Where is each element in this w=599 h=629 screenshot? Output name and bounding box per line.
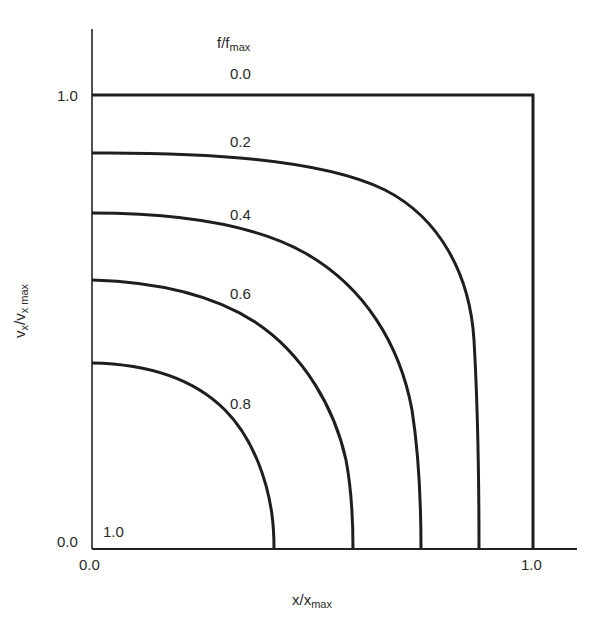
contour-line-0-0 — [92, 95, 533, 549]
y-axis-label-sub1: x — [18, 325, 30, 331]
legend-title: f/fmax — [217, 35, 250, 53]
y-axis-label-v: v — [11, 331, 28, 339]
contour-label-0-2: 0.2 — [230, 134, 251, 149]
contour-label-0-0: 0.0 — [230, 66, 251, 81]
x-axis-label-sub: max — [311, 598, 332, 610]
x-axis-label: x/xmax — [292, 592, 332, 610]
contour-label-0-6: 0.6 — [230, 286, 251, 301]
plot-canvas — [0, 0, 599, 629]
contour-line-0-8 — [92, 363, 274, 549]
contour-label-0-4: 0.4 — [230, 207, 251, 222]
y-axis-label: vx/vx max — [12, 284, 30, 338]
x-tick-1-0: 1.0 — [521, 557, 542, 572]
y-tick-0-0: 0.0 — [57, 534, 78, 549]
contour-label-1-0: 1.0 — [103, 524, 124, 539]
x-axis-label-main: x/x — [292, 591, 311, 608]
legend-title-sub: max — [230, 41, 251, 53]
y-axis-label-slash: /v — [11, 313, 28, 325]
y-tick-1-0: 1.0 — [57, 88, 78, 103]
legend-title-main: f/f — [217, 34, 230, 51]
y-axis-label-sub2: x max — [18, 284, 30, 313]
x-tick-0-0: 0.0 — [79, 557, 100, 572]
contour-line-0-4 — [92, 213, 421, 549]
contour-label-0-8: 0.8 — [230, 396, 251, 411]
contour-line-0-6 — [92, 280, 353, 549]
contour-figure: f/fmax 0.0 0.2 0.4 0.6 0.8 1.0 1.0 0.0 0… — [0, 0, 599, 629]
